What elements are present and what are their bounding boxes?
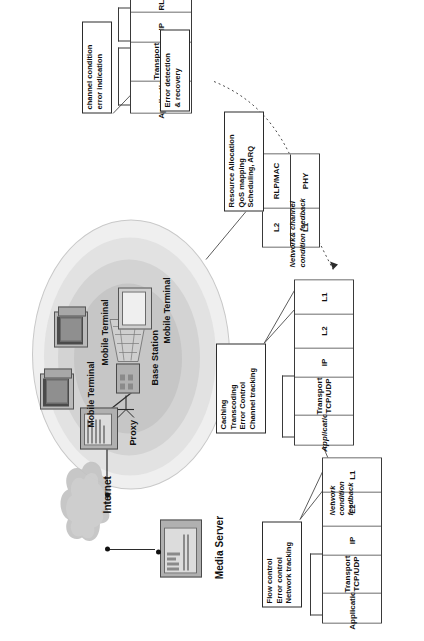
annotation-line: Resource Allocation (227, 115, 237, 207)
mobile-terminal-2 (52, 303, 92, 349)
annotation-line: Transcoding (229, 347, 239, 429)
mobile-terminal-1 (38, 365, 78, 411)
annotation-line: error indication (95, 25, 105, 109)
feedback-line: condition feedback (298, 198, 308, 267)
annotation-server-functions: Flow control Error control Network track… (262, 521, 302, 607)
diagram-canvas: Media Server Internet Proxy (0, 0, 424, 641)
mobile-terminal-label-1: Mobile Terminal (86, 361, 96, 427)
annotation-line: Network tracking (284, 525, 294, 603)
label-network-channel-condition-feedback: Network& channel condition feedback (288, 198, 307, 267)
layer-application: Application (323, 592, 381, 622)
annotation-channel-condition: channel condition error indication (82, 21, 112, 113)
mobile-terminal-label-2: Mobile Terminal (100, 299, 110, 365)
layer-transport-line1: Transport TCP/UDP (343, 555, 361, 592)
annotation-line: Scheduling, ARQ (246, 115, 256, 207)
annotation-line: Error control (275, 525, 285, 603)
annotation-line: Error Control (238, 347, 248, 429)
proxy-stack: Application Transport TCP/UDP IP L2 L1 (294, 279, 354, 445)
media-server-stack-brace (310, 553, 322, 615)
layer-transport: Transport TCP/UDP (295, 376, 353, 414)
figure-page: Media Server Internet Proxy (0, 0, 424, 641)
annotation-line: Flow control (265, 525, 275, 603)
annotation-error-detection: Error detection & recovery (160, 29, 190, 111)
mobile-terminal-3 (116, 285, 154, 331)
feedback-line: feedback (346, 481, 355, 515)
layer-rlp-mac: RLP/MAC (263, 154, 291, 207)
layer-l2: L2 (295, 313, 353, 346)
annotation-line: Caching (219, 347, 229, 429)
annotation-base-station-functions: Resource Allocation QoS mapping Scheduli… (224, 111, 264, 211)
annotation-proxy-functions: Caching Transcoding Error Control Channe… (216, 343, 266, 433)
proxy-stack-brace (282, 375, 294, 437)
layer-application: Application (295, 414, 353, 444)
annotation-line: channel condition (85, 25, 95, 109)
layer-transport: Transport TCP/UDP (323, 554, 381, 592)
annotation-line: & recovery (173, 33, 183, 107)
feedback-line: Network (328, 481, 337, 515)
label-network-condition-feedback: Network condition feedback (328, 481, 356, 515)
mobile-terminal-label-3: Mobile Terminal (162, 277, 172, 343)
mobile-stack-brace-right (118, 7, 130, 41)
feedback-line: condition (337, 481, 346, 515)
layer-ip: IP (323, 525, 381, 554)
annotation-line: Error detection (163, 33, 173, 107)
layer-rlp-mac: RLP/MAC (131, 0, 191, 11)
mobile-stack-brace-left (118, 47, 130, 105)
layer-transport-line1: Transport TCP/UDP (315, 377, 333, 414)
layer-l1: L1 (295, 280, 353, 313)
annotation-line: QoS mapping (237, 115, 247, 207)
layer-l2: L2 (263, 207, 291, 246)
layer-ip: IP (295, 347, 353, 376)
base-station-label: Base Station (150, 329, 160, 385)
annotation-line: Channel tracking (248, 347, 258, 429)
feedback-line: Network& channel (288, 198, 298, 267)
